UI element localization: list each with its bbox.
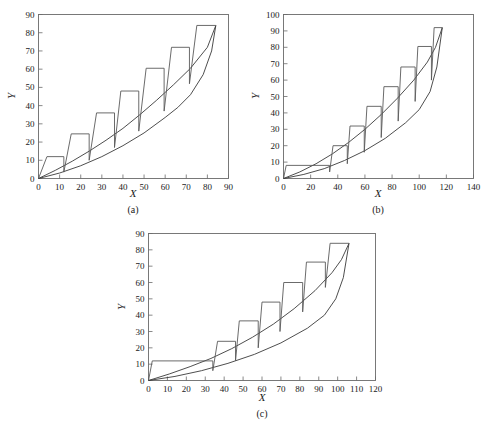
- xtick-label: 70: [276, 384, 286, 394]
- xtick-label: 50: [239, 384, 249, 394]
- figure-three-panel-staircase: 0102030405060708090 0102030405060708090 …: [0, 0, 491, 443]
- xtick-label: 10: [55, 182, 65, 192]
- ytick-label: 10: [26, 155, 36, 165]
- xtick-label: 90: [224, 182, 234, 192]
- ytick-label: 50: [26, 82, 36, 92]
- xtick-label: 10: [163, 384, 173, 394]
- ytick-label: 90: [271, 26, 281, 36]
- ytick-label: 20: [136, 343, 146, 353]
- xtick-label: 120: [440, 182, 454, 192]
- ytick-label: 50: [136, 294, 146, 304]
- xtick-label: 40: [333, 182, 343, 192]
- xtick-label: 100: [331, 384, 345, 394]
- ytick-label: 0: [275, 174, 280, 184]
- ytick-label: 60: [136, 278, 146, 288]
- xtick-label: 50: [140, 182, 150, 192]
- panel-b-xlabel: X: [374, 187, 383, 199]
- ytick-label: 10: [271, 157, 281, 167]
- xtick-label: 80: [388, 182, 398, 192]
- figure-background: [0, 0, 491, 443]
- xtick-label: 60: [161, 182, 171, 192]
- ytick-label: 60: [26, 64, 36, 74]
- xtick-label: 100: [412, 182, 426, 192]
- xtick-label: 0: [36, 182, 41, 192]
- xtick-label: 110: [350, 384, 364, 394]
- ytick-label: 80: [26, 28, 36, 38]
- xtick-label: 90: [314, 384, 324, 394]
- xtick-label: 30: [97, 182, 107, 192]
- ytick-label: 70: [271, 59, 281, 69]
- ytick-label: 90: [26, 10, 36, 20]
- xtick-label: 20: [306, 182, 316, 192]
- ytick-label: 40: [26, 101, 36, 111]
- xtick-label: 120: [369, 384, 383, 394]
- xtick-label: 70: [182, 182, 192, 192]
- xtick-label: 20: [182, 384, 192, 394]
- xtick-label: 20: [76, 182, 86, 192]
- xtick-label: 30: [201, 384, 211, 394]
- ytick-label: 70: [26, 46, 36, 56]
- xtick-label: 40: [118, 182, 128, 192]
- xtick-label: 80: [203, 182, 213, 192]
- xtick-label: 60: [360, 182, 370, 192]
- xtick-label: 40: [220, 384, 230, 394]
- panel-a-xlabel: X: [129, 187, 138, 199]
- ytick-label: 0: [30, 174, 35, 184]
- xtick-label: 140: [467, 182, 481, 192]
- panel-b-label: (b): [372, 204, 384, 216]
- ytick-label: 10: [136, 359, 146, 369]
- ytick-label: 100: [266, 10, 280, 20]
- ytick-label: 90: [136, 229, 146, 239]
- ytick-label: 20: [271, 141, 281, 151]
- ytick-label: 20: [26, 137, 36, 147]
- ytick-label: 40: [271, 108, 281, 118]
- ytick-label: 30: [136, 327, 146, 337]
- xtick-label: 0: [146, 384, 151, 394]
- xtick-label: 80: [295, 384, 305, 394]
- panel-c-xlabel: X: [258, 391, 267, 403]
- ytick-label: 80: [271, 42, 281, 52]
- ytick-label: 40: [136, 310, 146, 320]
- ytick-label: 80: [136, 245, 146, 255]
- panel-a-label: (a): [127, 204, 138, 216]
- ytick-label: 30: [271, 124, 281, 134]
- ytick-label: 30: [26, 119, 36, 129]
- ytick-label: 70: [136, 261, 146, 271]
- ytick-label: 0: [140, 376, 145, 386]
- ytick-label: 50: [271, 92, 281, 102]
- panel-c-label: (c): [256, 408, 267, 420]
- xtick-label: 0: [281, 182, 286, 192]
- ytick-label: 60: [271, 75, 281, 85]
